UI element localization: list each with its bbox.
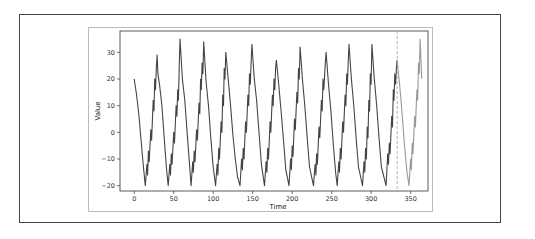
x-tick-label: 150 [246,195,258,203]
x-tick-label: 300 [365,195,377,203]
x-tick-label: 250 [325,195,337,203]
x-axis-label: Time [268,203,286,211]
y-tick-label: 0 [111,129,115,137]
x-axis: 050100150200250300350 [132,191,417,203]
y-tick-label: 30 [107,49,115,57]
line-chart: −20−100102030 050100150200250300350 Time… [0,0,535,239]
y-tick-label: −20 [101,182,115,190]
test-series-line [397,39,422,186]
y-axis: −20−100102030 [101,49,120,190]
y-tick-label: −10 [101,155,115,163]
x-tick-label: 200 [286,195,298,203]
train-series-line [134,39,397,186]
x-tick-label: 50 [170,195,178,203]
x-tick-label: 350 [404,195,416,203]
x-tick-label: 100 [207,195,219,203]
y-axis-label: Value [94,101,102,120]
y-tick-label: 10 [107,102,115,110]
x-tick-label: 0 [132,195,136,203]
y-tick-label: 20 [107,75,115,83]
